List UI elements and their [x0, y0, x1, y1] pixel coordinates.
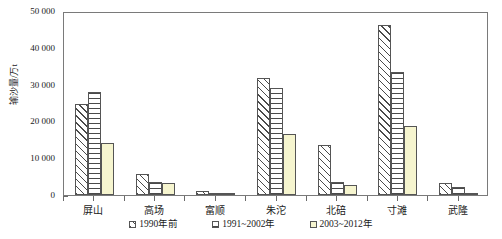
- bar-group: [136, 174, 175, 195]
- chart-legend: 1990年前1991~2002年2003~2012年: [0, 219, 502, 229]
- bar: [344, 185, 357, 195]
- bar: [283, 134, 296, 195]
- x-tick-label: 屏山: [63, 202, 123, 217]
- plot-area: [63, 12, 488, 196]
- legend-label: 1991~2002年: [222, 219, 275, 229]
- legend-swatch-icon: [212, 221, 219, 228]
- x-tick-mark: [458, 196, 459, 201]
- bar: [452, 187, 465, 195]
- legend-label: 2003~2012年: [320, 219, 373, 229]
- legend-swatch-icon: [129, 221, 136, 228]
- x-tick-mark: [184, 196, 185, 201]
- x-tick-label: 北碚: [306, 202, 366, 217]
- bar: [270, 88, 283, 195]
- x-tick-mark: [367, 196, 368, 201]
- x-tick-mark: [215, 196, 216, 201]
- x-tick-mark: [276, 196, 277, 201]
- legend-item: 1990年前: [129, 219, 178, 229]
- x-tick-mark: [336, 196, 337, 201]
- y-tick-label: 20 000: [3, 117, 55, 126]
- x-tick-mark: [63, 196, 64, 201]
- y-tick-label: 50 000: [3, 7, 55, 16]
- bar: [331, 182, 344, 195]
- x-tick-mark: [124, 196, 125, 201]
- x-tick-mark: [397, 196, 398, 201]
- bar: [162, 183, 175, 195]
- bar: [465, 193, 478, 195]
- bar: [88, 92, 101, 195]
- legend-label: 1990年前: [139, 219, 178, 229]
- legend-swatch-icon: [310, 221, 317, 228]
- bar: [378, 25, 391, 195]
- x-tick-label: 富顺: [185, 202, 245, 217]
- bar-group: [439, 183, 478, 196]
- x-tick-mark: [306, 196, 307, 201]
- x-tick-mark: [93, 196, 94, 201]
- bar: [257, 78, 270, 195]
- legend-item: 2003~2012年: [310, 219, 373, 229]
- bar-group: [257, 78, 296, 195]
- legend-item: 1991~2002年: [212, 219, 275, 229]
- sediment-discharge-bar-chart: 输沙量/万t 010 00020 00030 00040 00050 000 屏…: [0, 0, 502, 239]
- bar: [222, 193, 235, 195]
- bar: [101, 143, 114, 195]
- bar: [149, 182, 162, 195]
- bar-group: [318, 145, 357, 195]
- bar: [439, 183, 452, 196]
- x-tick-label: 寸滩: [367, 202, 427, 217]
- x-tick-mark: [245, 196, 246, 201]
- y-tick-label: 30 000: [3, 81, 55, 90]
- x-tick-mark: [427, 196, 428, 201]
- y-tick-label: 0: [3, 191, 55, 200]
- bar: [404, 126, 417, 195]
- x-tick-label: 武隆: [428, 202, 488, 217]
- bar: [209, 193, 222, 195]
- x-tick-mark: [154, 196, 155, 201]
- y-tick-label: 10 000: [3, 154, 55, 163]
- y-tick-label: 40 000: [3, 44, 55, 53]
- x-tick-label: 朱沱: [246, 202, 306, 217]
- bar: [318, 145, 331, 195]
- bar-group: [196, 191, 235, 195]
- bar: [75, 104, 88, 195]
- bar: [196, 191, 209, 195]
- bar: [391, 72, 404, 195]
- bar-group: [378, 25, 417, 195]
- bar-group: [75, 92, 114, 195]
- x-tick-label: 高场: [124, 202, 184, 217]
- bar: [136, 174, 149, 195]
